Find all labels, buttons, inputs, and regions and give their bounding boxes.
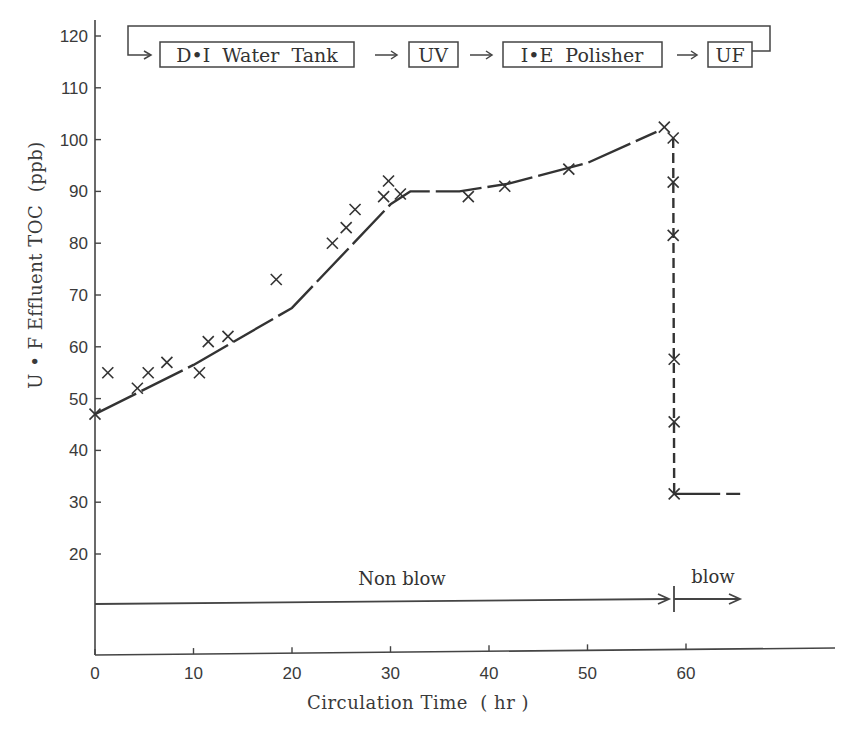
chart: 2030405060708090100110120 0102030405060 … <box>0 0 848 732</box>
data-point-marker <box>143 367 154 378</box>
data-point-marker <box>350 204 361 215</box>
blow-label: blow <box>691 566 735 587</box>
data-markers <box>90 122 680 500</box>
y-tick-label: 80 <box>69 234 88 253</box>
y-tick-label: 120 <box>60 27 88 46</box>
data-point-marker <box>499 181 510 192</box>
data-point-marker <box>378 191 389 202</box>
x-tick-label: 0 <box>90 664 99 683</box>
phase-indicator <box>95 586 740 612</box>
y-tick-label: 110 <box>61 79 88 98</box>
trend-lines <box>95 132 740 494</box>
data-point-marker <box>341 222 352 233</box>
y-tick-label: 60 <box>69 338 88 357</box>
data-point-marker <box>659 122 670 133</box>
trend-line <box>673 138 674 494</box>
data-point-marker <box>383 176 394 187</box>
polisher-label: I•E Polisher <box>521 44 644 66</box>
y-tick-label: 20 <box>69 545 88 564</box>
trend-line <box>95 132 656 414</box>
data-point-marker <box>194 367 205 378</box>
y-axis-title: U • F Effluent TOC (ppb) <box>25 141 46 389</box>
data-point-marker <box>327 238 338 249</box>
tank-label: D•I Water Tank <box>176 44 338 66</box>
y-tick-label: 50 <box>69 390 88 409</box>
non-blow-label: Non blow <box>358 568 446 589</box>
uv-label: UV <box>418 44 448 66</box>
x-tick-label: 50 <box>578 664 597 683</box>
x-tick-label: 60 <box>677 664 696 683</box>
data-point-marker <box>271 274 282 285</box>
data-point-marker <box>161 357 172 368</box>
x-tick-label: 20 <box>283 664 302 683</box>
x-tick-label: 30 <box>381 664 400 683</box>
x-axis <box>95 648 835 655</box>
data-point-marker <box>203 336 214 347</box>
y-tick-label: 40 <box>69 441 88 460</box>
uf-label: UF <box>715 44 744 66</box>
data-point-marker <box>102 367 113 378</box>
x-axis-ticks: 0102030405060 <box>90 643 695 683</box>
data-point-marker <box>463 191 474 202</box>
y-tick-label: 90 <box>69 182 88 201</box>
non-blow-arrow <box>95 599 668 604</box>
data-point-marker <box>222 331 233 342</box>
y-tick-label: 70 <box>69 286 88 305</box>
y-tick-label: 100 <box>60 131 88 150</box>
data-point-marker <box>132 383 143 394</box>
x-tick-label: 10 <box>184 664 203 683</box>
axes <box>95 20 835 655</box>
x-axis-title: Circulation Time ( hr ) <box>307 692 529 713</box>
y-tick-label: 30 <box>69 493 88 512</box>
x-tick-label: 40 <box>480 664 499 683</box>
